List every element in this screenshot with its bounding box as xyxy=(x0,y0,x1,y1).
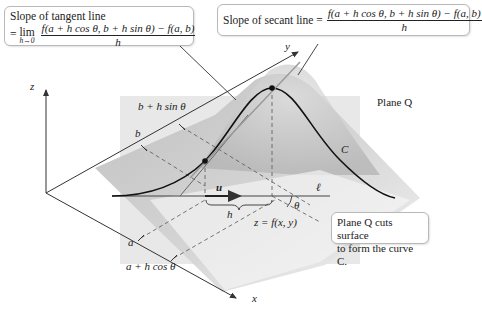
h-label: h xyxy=(227,208,233,220)
point-a-b xyxy=(202,158,208,164)
z-axis-label: z xyxy=(30,80,34,92)
secant-fraction: f(a + h cos θ, b + h sin θ) − f(a, b) h xyxy=(327,7,482,34)
a-plus-h-cos-label: a + h cos θ xyxy=(126,260,176,272)
b-label: b xyxy=(135,127,141,139)
plane-callout-line1: Plane Q cuts surface xyxy=(337,216,423,242)
y-axis-label: y xyxy=(285,40,290,52)
equals-sign: = xyxy=(10,28,17,40)
plane-q-callout: Plane Q cuts surface to form the curve C… xyxy=(331,212,429,244)
x-axis-label: x xyxy=(252,292,257,304)
surface-equation-label: z = f(x, y) xyxy=(254,216,297,228)
point-a-plus-h xyxy=(269,85,275,91)
secant-slope-callout: Slope of secant line = f(a + h cos θ, b … xyxy=(217,4,470,36)
plane-q-label: Plane Q xyxy=(377,96,412,108)
line-l-label: ℓ xyxy=(316,181,321,193)
plane-callout-line2: to form the curve C. xyxy=(337,242,423,268)
vector-u-label: u xyxy=(216,181,222,193)
limit-operator: lim h→0 xyxy=(19,27,34,45)
tangent-fraction: f(a + h cos θ, b + h sin θ) − f(a, b) h xyxy=(41,22,196,49)
tangent-slope-callout: Slope of tangent line = lim h→0 f(a + h … xyxy=(4,6,194,46)
a-label: a xyxy=(128,236,134,248)
curve-c-label: C xyxy=(341,143,348,155)
b-plus-h-sin-label: b + h sin θ xyxy=(138,100,186,112)
theta-label: θ xyxy=(294,199,299,211)
secant-title: Slope of secant line = xyxy=(223,14,323,27)
